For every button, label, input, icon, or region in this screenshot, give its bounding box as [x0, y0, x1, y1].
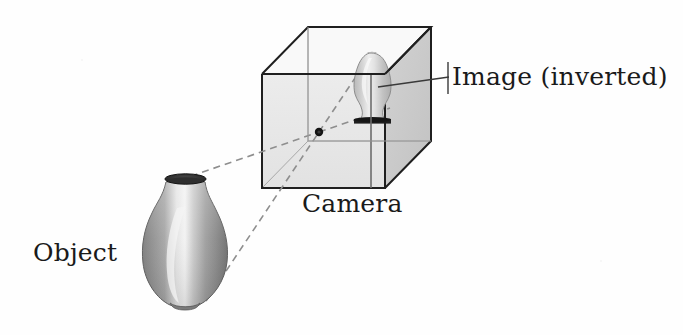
label-camera: Camera — [302, 189, 403, 218]
figure-canvas: Image (inverted) Camera Object — [0, 0, 683, 335]
object-vase — [142, 174, 227, 310]
label-object: Object — [33, 238, 117, 267]
object-vase-rim-inner — [169, 177, 202, 183]
image-vase-rim-ellipse — [354, 117, 391, 122]
label-image-inverted: Image (inverted) — [452, 62, 668, 91]
pinhole-aperture — [315, 128, 323, 136]
object-vase-shading — [142, 182, 227, 307]
camera-box — [262, 27, 431, 188]
pinhole-camera-diagram — [0, 0, 683, 335]
